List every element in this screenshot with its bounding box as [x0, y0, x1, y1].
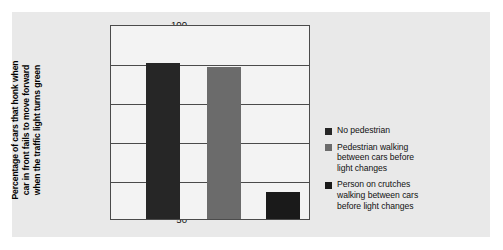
gridline-90 — [111, 65, 309, 66]
legend-label-3: Person on crutcheswalking between carsbe… — [337, 179, 418, 211]
legend-label-line: between cars before — [337, 152, 414, 163]
legend-label-line: Person on crutches — [337, 179, 418, 190]
legend-label-line: No pedestrian — [337, 125, 390, 136]
legend-label-line: before light changes — [337, 201, 418, 212]
legend-label-line: light changes — [337, 163, 414, 174]
bar-3 — [266, 192, 300, 219]
y-axis-title-line-2: car in front fails to move forward — [21, 30, 32, 230]
chart-legend: No pedestrianPedestrian walkingbetween c… — [325, 125, 485, 217]
legend-label-line: walking between cars — [337, 190, 418, 201]
bar-2 — [207, 67, 241, 219]
plot-area — [110, 25, 310, 220]
legend-label-1: No pedestrian — [337, 125, 390, 136]
legend-swatch-1 — [325, 128, 332, 135]
legend-item-3: Person on crutcheswalking between carsbe… — [325, 179, 485, 211]
legend-label-line: Pedestrian walking — [337, 142, 414, 153]
chart-figure-panel: Percentage of cars that honk when car in… — [12, 12, 490, 237]
legend-item-2: Pedestrian walkingbetween cars beforelig… — [325, 142, 485, 174]
legend-item-1: No pedestrian — [325, 125, 485, 136]
y-axis-title-line-1: Percentage of cars that honk when — [10, 30, 21, 230]
legend-swatch-3 — [325, 182, 332, 189]
legend-label-2: Pedestrian walkingbetween cars beforelig… — [337, 142, 414, 174]
bar-1 — [146, 63, 180, 219]
y-axis-title: Percentage of cars that honk when car in… — [10, 30, 44, 230]
y-axis-title-line-3: when the traffic light turns green — [32, 30, 43, 230]
legend-swatch-2 — [325, 144, 332, 151]
